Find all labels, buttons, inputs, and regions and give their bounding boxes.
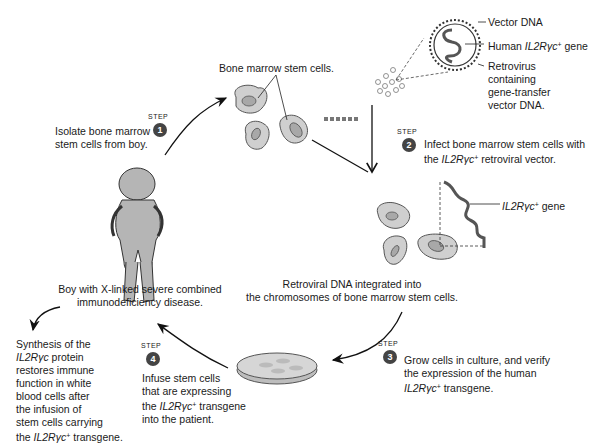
step-1-badge: STEP 1: [148, 113, 174, 139]
step-3-text: Grow cells in culture, and verify the ex…: [404, 354, 550, 395]
retrovirus-detail: [396, 20, 486, 80]
human-gene-label: Human IL2Rγc+ gene: [488, 38, 588, 53]
boy-label: Boy with X-linked severe combined immuno…: [40, 283, 240, 309]
arrow-step1: [165, 98, 226, 155]
step-1-text: Isolate bone marrow stem cells from boy.: [55, 125, 150, 151]
arrow-step4: [158, 324, 228, 368]
boy-illustration: [112, 168, 162, 302]
step-4-badge: STEP 4: [141, 342, 167, 368]
step-3-badge: STEP 3: [378, 340, 404, 366]
bone-marrow-cells-label: Bone marrow stem cells.: [219, 62, 334, 75]
integrated-gene-label: IL2Rγc+ gene: [502, 198, 565, 213]
retrovirus-label: Retrovirus containing gene-transfer vect…: [488, 60, 550, 112]
step-2-text: Infect bone marrow stem cells with the I…: [424, 138, 585, 166]
petri-dish: [237, 353, 317, 384]
retroviral-integrated-label: Retroviral DNA integrated into the chrom…: [232, 278, 472, 304]
infected-cells: [377, 182, 500, 264]
cells-to-infection-line: [312, 140, 368, 172]
step-4-text: Infuse stem cells that are expressing th…: [142, 372, 246, 426]
step-2-badge: STEP 2: [397, 128, 423, 154]
virus-particles: [376, 68, 405, 97]
arrow-outcome: [33, 307, 60, 330]
vector-dna-label: Vector DNA: [488, 16, 543, 29]
outcome-text: Synthesis of the IL2Rγc protein restores…: [16, 338, 123, 444]
bone-marrow-cells-top: [235, 75, 308, 149]
